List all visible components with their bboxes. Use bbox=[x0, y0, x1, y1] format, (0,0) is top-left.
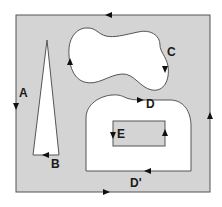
label-d: D bbox=[146, 98, 155, 110]
diagram-canvas bbox=[0, 0, 222, 207]
label-b: B bbox=[51, 158, 60, 170]
label-a: A bbox=[19, 87, 28, 99]
label-e: E bbox=[117, 128, 125, 140]
label-d-prime: D' bbox=[130, 177, 142, 189]
label-c: C bbox=[167, 46, 176, 58]
